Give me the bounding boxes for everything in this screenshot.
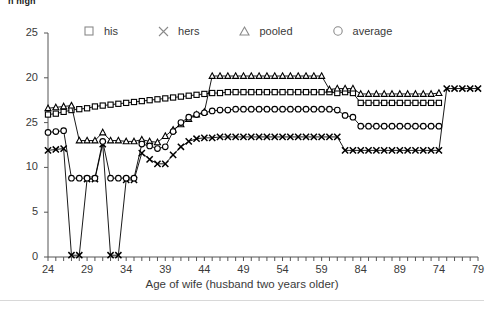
triangle-data-marker <box>264 73 270 79</box>
circle-data-marker <box>233 106 239 112</box>
square-data-marker <box>256 90 261 95</box>
circle-data-marker <box>45 130 51 136</box>
triangle-data-marker <box>53 104 59 110</box>
circle-data-marker <box>155 146 161 152</box>
square-data-marker <box>264 90 269 95</box>
circle-data-marker <box>420 123 426 129</box>
series-line-average <box>48 109 439 178</box>
x-axis-tick-label: 59 <box>307 263 337 275</box>
square-data-marker <box>389 100 394 105</box>
square-data-marker <box>92 104 97 109</box>
legend-item-hers: hers <box>152 23 233 39</box>
square-data-marker <box>272 90 277 95</box>
x-axis-tick-label: 39 <box>150 263 180 275</box>
triangle-data-marker <box>68 102 74 108</box>
triangle-data-marker <box>412 91 418 97</box>
triangle-data-marker <box>366 91 372 97</box>
x-data-marker <box>170 152 176 158</box>
x-data-marker <box>178 144 184 150</box>
circle-data-marker <box>381 123 387 129</box>
legend-label-pooled: pooled <box>259 25 292 37</box>
x-axis-tick-label: 54 <box>268 263 298 275</box>
footer-divider <box>0 300 484 301</box>
triangle-data-marker <box>280 73 286 79</box>
circle-data-marker <box>374 123 380 129</box>
x-data-marker <box>186 138 192 144</box>
circle-data-marker <box>256 106 262 112</box>
x-marker-icon <box>152 23 174 39</box>
square-data-marker <box>61 109 66 114</box>
triangle-data-marker <box>233 73 239 79</box>
triangle-data-marker <box>326 86 332 92</box>
x-axis-tick-label: 29 <box>72 263 102 275</box>
y-axis-tick-label: 25 <box>12 26 38 38</box>
square-data-marker <box>382 100 387 105</box>
triangle-data-marker <box>225 73 231 79</box>
circle-data-marker <box>131 175 137 181</box>
triangle-data-marker <box>272 73 278 79</box>
square-data-marker <box>77 107 82 112</box>
triangle-data-marker <box>154 139 160 145</box>
circle-data-marker <box>100 139 106 145</box>
square-data-marker <box>139 98 144 103</box>
circle-data-marker <box>162 144 168 150</box>
legend-label-hers: hers <box>178 25 199 37</box>
circle-data-marker <box>170 129 176 135</box>
circle-data-marker <box>116 175 122 181</box>
triangle-data-marker <box>428 91 434 97</box>
square-data-marker <box>194 92 199 97</box>
legend-label-his: his <box>104 25 118 37</box>
circle-data-marker <box>84 175 90 181</box>
x-axis-tick-label: 74 <box>424 263 454 275</box>
y-axis-tick-label: 0 <box>12 250 38 262</box>
triangle-data-marker <box>76 137 82 143</box>
circle-data-marker <box>147 143 153 149</box>
y-axis-tick-label: 25 <box>12 116 38 128</box>
circle-data-marker <box>241 106 247 112</box>
circle-data-marker <box>123 175 129 181</box>
x-axis-tick-label: 84 <box>346 263 376 275</box>
triangle-data-marker <box>61 103 67 109</box>
triangle-data-marker <box>436 90 442 96</box>
triangle-data-marker <box>256 73 262 79</box>
triangle-data-marker <box>162 133 168 139</box>
circle-data-marker <box>186 114 192 120</box>
circle-data-marker <box>350 114 356 120</box>
circle-data-marker <box>69 175 75 181</box>
triangle-data-marker <box>373 91 379 97</box>
square-data-marker <box>147 98 152 103</box>
circle-data-marker <box>288 106 294 112</box>
circle-data-marker <box>327 106 333 112</box>
circle-data-marker <box>225 107 231 113</box>
triangle-data-marker <box>350 85 356 91</box>
square-data-marker <box>397 100 402 105</box>
circle-data-marker <box>311 106 317 112</box>
clipped-header-text: n high <box>8 0 36 6</box>
circle-data-marker <box>303 106 309 112</box>
circle-data-marker <box>139 141 145 147</box>
square-data-marker <box>319 90 324 95</box>
circle-data-marker <box>92 175 98 181</box>
square-data-marker <box>186 93 191 98</box>
triangle-data-marker <box>342 85 348 91</box>
circle-data-marker <box>76 175 82 181</box>
square-data-marker <box>233 90 238 95</box>
square-data-marker <box>45 112 50 117</box>
triangle-data-marker <box>84 137 90 143</box>
square-data-marker <box>210 90 215 95</box>
x-axis-title: Age of wife (husband two years older) <box>0 278 484 290</box>
square-data-marker <box>358 100 363 105</box>
series-line-hers <box>48 89 478 256</box>
circle-data-marker <box>319 106 325 112</box>
square-data-marker <box>296 90 301 95</box>
square-data-marker <box>163 96 168 101</box>
circle-data-marker <box>53 129 59 135</box>
triangle-data-marker <box>100 129 106 135</box>
x-axis-tick-label: 89 <box>385 263 415 275</box>
square-data-marker <box>225 90 230 95</box>
square-data-marker <box>217 90 222 95</box>
legend-label-average: average <box>353 25 393 37</box>
square-data-marker <box>280 90 285 95</box>
circle-data-marker <box>194 112 200 118</box>
square-data-marker <box>311 90 316 95</box>
